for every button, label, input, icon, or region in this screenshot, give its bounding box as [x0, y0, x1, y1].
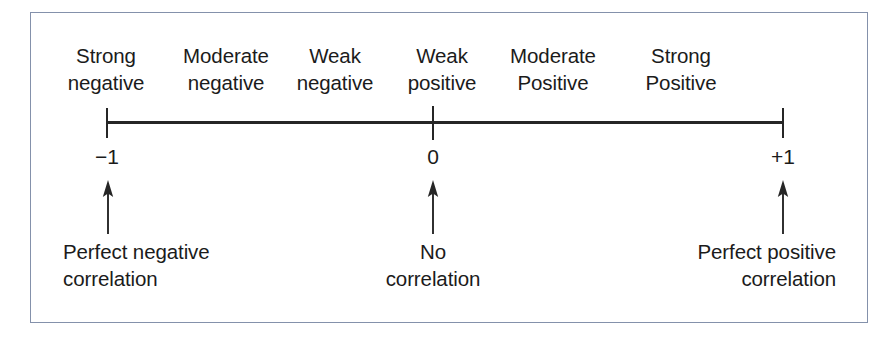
axis-tick-minus-one: [106, 108, 108, 138]
band-label-line2: positive: [408, 69, 477, 96]
band-label-strong-negative: Strong negative: [68, 42, 145, 96]
band-label-strong-positive: Strong Positive: [646, 42, 717, 96]
axis-tick-plus-one: [782, 108, 784, 138]
callout-caption-perfect-positive: Perfect positive correlation: [697, 238, 836, 292]
band-label-line1: Weak: [416, 44, 468, 67]
band-label-line1: Weak: [309, 44, 361, 67]
band-label-line2: negative: [297, 69, 374, 96]
band-label-line1: Strong: [76, 44, 136, 67]
callout-caption-no-correlation: No correlation: [386, 238, 481, 292]
band-label-line2: negative: [183, 69, 269, 96]
caption-line2: correlation: [63, 265, 210, 292]
band-label-moderate-positive: Moderate Positive: [510, 42, 596, 96]
caption-line1: Perfect positive: [697, 240, 836, 263]
callout-arrow-left: [100, 180, 116, 238]
band-label-line2: negative: [68, 69, 145, 96]
band-label-weak-negative: Weak negative: [297, 42, 374, 96]
axis-value-minus-one: −1: [95, 145, 119, 169]
caption-line2: correlation: [386, 265, 481, 292]
up-arrow-icon: [775, 180, 791, 234]
callout-arrow-right: [775, 180, 791, 238]
correlation-scale-figure: Strong negative Moderate negative Weak n…: [0, 0, 896, 345]
band-label-line2: Positive: [510, 69, 596, 96]
callout-caption-perfect-negative: Perfect negative correlation: [63, 238, 210, 292]
axis-tick-zero: [432, 106, 434, 140]
caption-line1: Perfect negative: [63, 240, 210, 263]
caption-line1: No: [420, 240, 446, 263]
up-arrow-icon: [425, 180, 441, 234]
axis-value-plus-one: +1: [771, 145, 795, 169]
band-label-line1: Moderate: [183, 44, 269, 67]
up-arrow-icon: [100, 180, 116, 234]
caption-line2: correlation: [697, 265, 836, 292]
band-label-line2: Positive: [646, 69, 717, 96]
band-label-line1: Moderate: [510, 44, 596, 67]
number-line-axis: [107, 121, 784, 124]
band-label-moderate-negative: Moderate negative: [183, 42, 269, 96]
callout-arrow-center: [425, 180, 441, 238]
axis-value-zero: 0: [427, 145, 439, 169]
band-label-line1: Strong: [651, 44, 711, 67]
band-label-weak-positive: Weak positive: [408, 42, 477, 96]
